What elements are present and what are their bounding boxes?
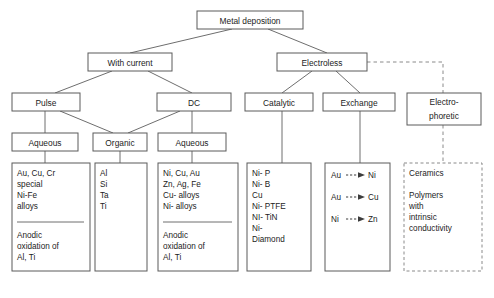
list-item: Cu- alloys — [163, 191, 199, 200]
list-item: oxidation of — [163, 242, 206, 251]
flowchart-canvas: Metal deposition With current Electroles… — [0, 0, 494, 298]
node-catalytic-label: Catalytic — [263, 98, 295, 108]
node-exchange-label: Exchange — [340, 98, 378, 108]
node-with-current-label: With current — [107, 58, 153, 68]
node-electroless[interactable]: Electroless — [277, 53, 367, 71]
list-item: Cu — [252, 191, 263, 200]
node-aqueous-pulse-label: Aqueous — [28, 138, 61, 148]
list-box-organic[interactable]: Al Si Ta Ti — [95, 163, 147, 271]
list-box-electrophoretic[interactable]: Ceramics Polymers with intrinsic conduct… — [404, 163, 482, 271]
exchange-pair-to: Ni — [368, 171, 376, 180]
node-electroless-label: Electroless — [302, 58, 343, 68]
connector-with-current-to-pulse — [55, 71, 112, 93]
node-catalytic[interactable]: Catalytic — [245, 93, 313, 111]
exchange-pair-from: Au — [331, 171, 341, 180]
list-item: Anodic — [163, 231, 188, 240]
list-item: Au, Cu, Cr — [17, 169, 55, 178]
list-item: Al, Ti — [17, 253, 35, 262]
node-aqueous-dc[interactable]: Aqueous — [158, 133, 226, 151]
list-item: Ni, Cu, Au — [163, 169, 200, 178]
node-pulse[interactable]: Pulse — [12, 93, 80, 111]
node-exchange[interactable]: Exchange — [323, 93, 395, 111]
list-item: Ni- PTFE — [252, 202, 286, 211]
list-item: intrinsic — [409, 213, 437, 222]
list-item: alloys — [17, 202, 38, 211]
exchange-pair-to: Zn — [368, 215, 378, 224]
node-metal-deposition[interactable]: Metal deposition — [197, 11, 303, 29]
list-item: Ceramics — [409, 169, 444, 178]
node-metal-deposition-label: Metal deposition — [220, 16, 281, 26]
list-item: oxidation of — [17, 242, 60, 251]
node-organic-label: Organic — [105, 138, 134, 148]
connector-root-to-electroless — [268, 29, 327, 53]
node-pulse-label: Pulse — [36, 98, 57, 108]
list-item: Si — [100, 180, 107, 189]
connector-root-to-with-current — [130, 29, 232, 53]
list-box-aqueous-pulse[interactable]: Au, Cu, Cr special Ni-Fe alloys Anodic o… — [12, 163, 90, 271]
list-box-catalytic[interactable]: Ni- P Ni- B Cu Ni- PTFE NI- TiN Ni- Diam… — [247, 163, 311, 271]
exchange-pair-from: Au — [331, 193, 341, 202]
connector-with-current-to-dc — [148, 71, 192, 93]
connector-electroless-to-catalytic — [282, 71, 312, 93]
list-item: conductivity — [409, 224, 453, 233]
node-aqueous-dc-label: Aqueous — [175, 138, 208, 148]
list-item: Ni-Fe — [17, 191, 37, 200]
node-dc-label: DC — [188, 98, 200, 108]
node-electrophoretic-label-line2: phoretic — [429, 111, 459, 121]
list-item: Anodic — [17, 231, 42, 240]
node-organic[interactable]: Organic — [93, 133, 147, 151]
list-item: Ni- alloys — [163, 202, 197, 211]
list-item: Al — [100, 169, 107, 178]
exchange-pair-from: Ni — [331, 215, 339, 224]
connector-dc-to-organic — [128, 111, 180, 133]
list-box-aqueous-dc[interactable]: Ni, Cu, Au Zn, Ag, Fe Cu- alloys Ni- all… — [158, 163, 238, 271]
node-dc[interactable]: DC — [157, 93, 231, 111]
node-aqueous-pulse[interactable]: Aqueous — [12, 133, 78, 151]
list-item: Ni- — [252, 224, 263, 233]
list-item: with — [408, 202, 424, 211]
list-item: Zn, Ag, Fe — [163, 180, 201, 189]
flowchart-metal-deposition: Metal deposition With current Electroles… — [0, 0, 494, 298]
connector-electroless-to-electrophoretic-dashed — [367, 62, 443, 93]
list-item: NI- TiN — [252, 213, 278, 222]
node-electrophoretic[interactable]: Electro- phoretic — [407, 93, 481, 125]
caption-strip — [0, 290, 494, 298]
exchange-pair-to: Cu — [368, 193, 379, 202]
connector-pulse-to-organic — [60, 111, 113, 133]
list-box-exchange[interactable]: Au Ni Au Cu Ni Zn — [325, 163, 390, 271]
list-item: Polymers — [409, 191, 443, 200]
node-electrophoretic-label-line1: Electro- — [430, 97, 459, 107]
list-item: Al, Ti — [163, 253, 181, 262]
list-item: Ni- B — [252, 180, 271, 189]
list-item: Ti — [100, 202, 107, 211]
list-item: special — [17, 180, 43, 189]
list-item: Ta — [100, 191, 109, 200]
list-item: Ni- P — [252, 169, 271, 178]
node-with-current[interactable]: With current — [88, 53, 172, 71]
list-item: Diamond — [252, 235, 285, 244]
connector-electroless-to-exchange — [336, 71, 360, 93]
